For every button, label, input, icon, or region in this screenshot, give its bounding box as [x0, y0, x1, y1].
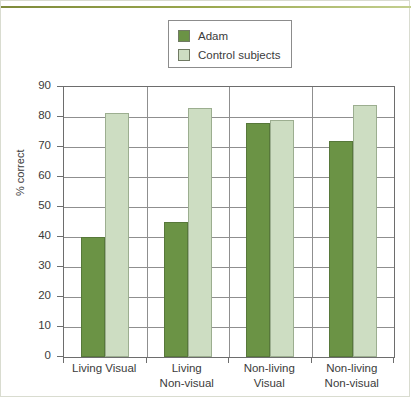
category-separator: [312, 87, 313, 357]
bar-adam: [164, 222, 188, 357]
y-axis-tick-label: 40: [25, 230, 51, 242]
legend-label-adam: Adam: [198, 30, 228, 42]
bar-adam: [246, 123, 270, 357]
y-axis-tick-label: 50: [25, 200, 51, 212]
plot-area: [63, 86, 395, 358]
y-axis-tick-label: 90: [25, 80, 51, 92]
bar-control: [188, 108, 212, 357]
top-accent-rule: [1, 6, 411, 8]
category-separator: [147, 87, 148, 357]
legend-swatch-adam: [178, 30, 190, 42]
category-separator: [229, 87, 230, 357]
y-axis-tick-label: 60: [25, 170, 51, 182]
legend-entry-control: Control subjects: [178, 45, 291, 64]
bar-control: [353, 105, 377, 357]
bar-adam: [81, 237, 105, 357]
bar-control: [105, 113, 129, 358]
y-axis-tick-label: 0: [25, 350, 51, 362]
x-axis-category-label: Non-livingNon-visual: [297, 361, 407, 391]
legend-entry-adam: Adam: [178, 26, 291, 45]
y-axis-tick-label: 30: [25, 260, 51, 272]
legend-label-control: Control subjects: [198, 49, 280, 61]
bar-adam: [329, 141, 353, 357]
y-axis-tick-label: 10: [25, 320, 51, 332]
legend-swatch-control: [178, 49, 190, 61]
x-axis-category-label-line: Non-visual: [297, 376, 407, 391]
chart-legend: Adam Control subjects: [168, 20, 292, 68]
y-axis-tick-label: 70: [25, 140, 51, 152]
bar-control: [270, 120, 294, 357]
y-axis-tick-label: 20: [25, 290, 51, 302]
x-axis-category-label-line: Non-living: [297, 361, 407, 376]
y-axis-tick-label: 80: [25, 110, 51, 122]
